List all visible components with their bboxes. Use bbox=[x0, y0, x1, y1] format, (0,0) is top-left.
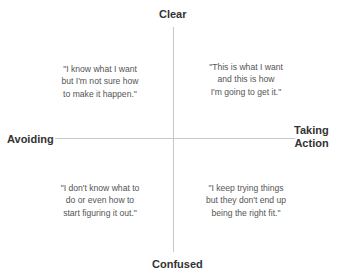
axis-label-confused: Confused bbox=[152, 258, 203, 270]
quadrant-quote-top-left: "I know what I want but I'm not sure how… bbox=[40, 63, 160, 100]
quadrant-quote-bottom-left: "I don't know what to do or even how to … bbox=[40, 182, 160, 219]
axis-label-taking-action: Taking Action bbox=[294, 124, 329, 150]
vertical-axis-line bbox=[173, 27, 174, 252]
quadrant-quote-top-right: "This is what I want and this is how I'm… bbox=[186, 61, 306, 98]
horizontal-axis-line bbox=[55, 138, 295, 139]
quadrant-quote-bottom-right: "I keep trying things but they don't end… bbox=[186, 182, 306, 219]
axis-label-avoiding: Avoiding bbox=[7, 133, 54, 145]
axis-label-clear: Clear bbox=[159, 8, 187, 20]
